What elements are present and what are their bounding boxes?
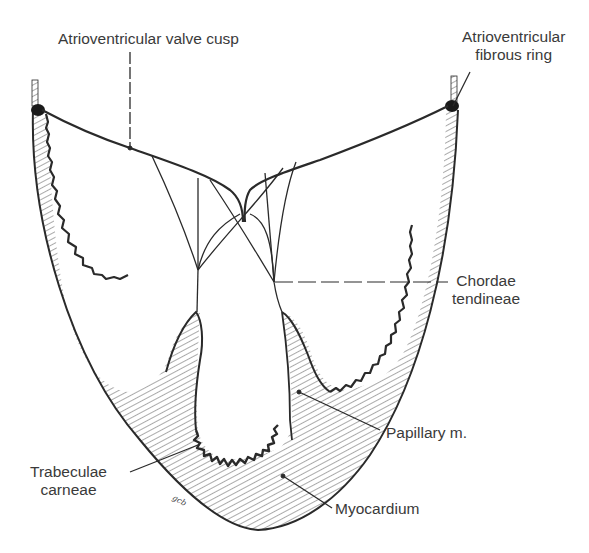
label-papillary-muscle: Papillary m. [386, 424, 467, 442]
label-fibrous-ring: Atrioventricular fibrous ring [462, 28, 565, 64]
label-trabeculae-carneae: Trabeculae carneae [30, 463, 107, 499]
label-chordae-line1: Chordae [452, 272, 520, 290]
left-valve-cusp [42, 110, 243, 222]
label-chordae-tendineae: Chordae tendineae [452, 272, 520, 308]
chordae-tendineae [152, 156, 296, 312]
right-valve-cusp [245, 106, 448, 222]
label-valve-cusp: Atrioventricular valve cusp [58, 30, 239, 48]
label-fibrous-ring-line2: fibrous ring [462, 46, 565, 64]
left-atrial-wall [32, 80, 38, 106]
label-fibrous-ring-line1: Atrioventricular [462, 28, 565, 46]
label-myocardium: Myocardium [335, 500, 419, 518]
right-atrial-wall [451, 76, 457, 102]
label-chordae-line2: tendineae [452, 290, 520, 308]
left-trabeculae [46, 114, 128, 279]
label-trabeculae-line2: carneae [30, 481, 107, 499]
label-trabeculae-line1: Trabeculae [30, 463, 107, 481]
